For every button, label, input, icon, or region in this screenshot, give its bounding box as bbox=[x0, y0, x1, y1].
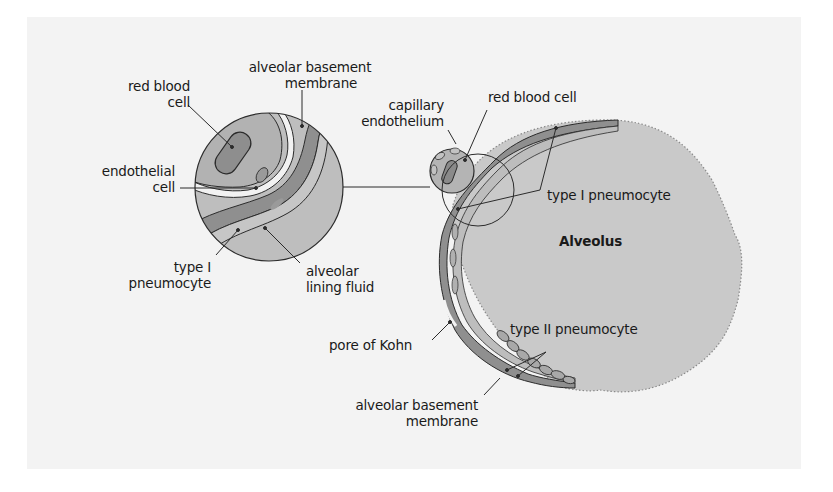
label-inset-alveolar-lining-fluid: alveolar lining fluid bbox=[306, 263, 374, 295]
label-inset-endothelial-cell: endothelial cell bbox=[95, 163, 175, 195]
label-type-ii-pneumocyte: type II pneumocyte bbox=[510, 321, 638, 337]
label-red-blood-cell: red blood cell bbox=[488, 89, 577, 105]
label-capillary-endothelium: capillary endothelium bbox=[344, 97, 444, 129]
label-alveolus: Alveolus bbox=[559, 233, 622, 249]
label-inset-alveolar-basement-membrane: alveolar basement membrane bbox=[240, 59, 380, 91]
label-type-i-pneumocyte: type I pneumocyte bbox=[547, 187, 671, 203]
inset-magnified-view bbox=[190, 110, 358, 270]
label-inset-type-i-pneumocyte: type I pneumocyte bbox=[115, 259, 211, 291]
label-pore-of-kohn: pore of Kohn bbox=[329, 337, 412, 353]
label-inset-red-blood-cell: red blood cell bbox=[110, 78, 190, 110]
label-alveolar-basement-membrane: alveolar basement membrane bbox=[330, 397, 478, 429]
